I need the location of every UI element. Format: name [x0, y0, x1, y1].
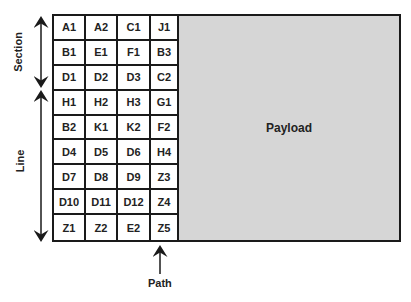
grid-cell: H4	[151, 140, 177, 165]
grid-cell: D2	[86, 66, 118, 91]
payload-area: Payload	[177, 14, 401, 242]
grid-cell: H3	[118, 91, 151, 116]
grid-cell: Z4	[151, 190, 177, 215]
payload-label: Payload	[266, 121, 312, 135]
grid-cell: C2	[151, 66, 177, 91]
grid-cell: B1	[54, 41, 86, 66]
section-label: Section	[12, 32, 24, 72]
grid-cell: C1	[118, 16, 151, 41]
grid-cell: F2	[151, 116, 177, 141]
grid-cell: F1	[118, 41, 151, 66]
grid-cell: D11	[86, 190, 118, 215]
grid-cell: B3	[151, 41, 177, 66]
grid-cell: K2	[118, 116, 151, 141]
grid-cell: D12	[118, 190, 151, 215]
line-label: Line	[14, 150, 26, 173]
overhead-grid: A1A2C1J1B1E1F1B3D1D2D3C2H1H2H3G1B2K1K2F2…	[52, 14, 179, 242]
grid-cell: H1	[54, 91, 86, 116]
grid-cell: H2	[86, 91, 118, 116]
grid-cell: D1	[54, 66, 86, 91]
grid-cell: G1	[151, 91, 177, 116]
grid-cell: J1	[151, 16, 177, 41]
frame-structure-diagram: Section Line A1A2C1J1B1E1F1B3D1D2D3C2H1H…	[0, 0, 411, 302]
grid-cell: D9	[118, 165, 151, 190]
grid-cell: D10	[54, 190, 86, 215]
grid-cell: K1	[86, 116, 118, 141]
grid-cell: D4	[54, 140, 86, 165]
grid-cell: D7	[54, 165, 86, 190]
grid-cell: B2	[54, 116, 86, 141]
grid-cell: D5	[86, 140, 118, 165]
grid-cell: Z5	[151, 215, 177, 240]
grid-cell: D8	[86, 165, 118, 190]
grid-cell: Z3	[151, 165, 177, 190]
grid-cell: Z1	[54, 215, 86, 240]
grid-cell: E2	[118, 215, 151, 240]
grid-cell: D3	[118, 66, 151, 91]
grid-cell: E1	[86, 41, 118, 66]
grid-cell: D6	[118, 140, 151, 165]
grid-cell: A2	[86, 16, 118, 41]
path-label: Path	[148, 277, 172, 289]
grid-cell: A1	[54, 16, 86, 41]
grid-cell: Z2	[86, 215, 118, 240]
